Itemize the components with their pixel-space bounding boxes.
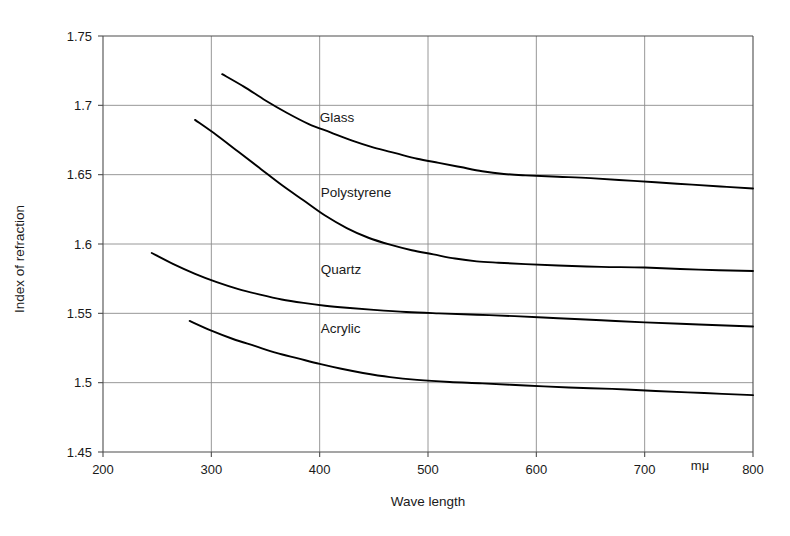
y-axis-title: Index of refraction (12, 205, 27, 313)
series-label-quartz: Quartz (321, 262, 362, 277)
series-label-polystyrene: Polystyrene (321, 185, 392, 200)
x-tick-label: 700 (634, 462, 656, 477)
y-tick-label: 1.7 (74, 98, 92, 113)
y-tick-label: 1.75 (67, 29, 92, 44)
series-label-acrylic: Acrylic (321, 321, 361, 336)
y-tick-label: 1.65 (67, 167, 92, 182)
y-tick-label: 1.5 (74, 375, 92, 390)
y-tick-label: 1.55 (67, 306, 92, 321)
x-axis-title: Wave length (391, 494, 466, 509)
x-tick-label: 500 (417, 462, 439, 477)
x-tick-label: 300 (200, 462, 222, 477)
y-tick-label: 1.6 (74, 237, 92, 252)
x-tick-label: 800 (742, 462, 764, 477)
x-tick-label: 200 (92, 462, 114, 477)
y-tick-label: 1.45 (67, 445, 92, 460)
x-tick-label: 400 (309, 462, 331, 477)
refraction-index-chart: 200300400500600700800 1.451.51.551.61.65… (0, 0, 790, 536)
x-axis-unit-label: mμ (691, 458, 709, 473)
x-tick-label: 600 (525, 462, 547, 477)
series-label-glass: Glass (320, 110, 355, 125)
chart-canvas: 200300400500600700800 1.451.51.551.61.65… (0, 0, 790, 536)
